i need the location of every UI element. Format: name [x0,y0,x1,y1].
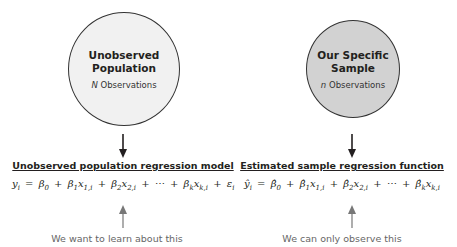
eq-plus: + [284,178,296,189]
sample-count: n Observations [321,80,385,90]
eq-term-var-sub: k,i [431,184,440,192]
eq-plus: + [371,178,383,189]
eq-lhs-sub: i [250,184,252,192]
eq-plus: + [400,178,412,189]
down-arrow-icon [118,134,128,158]
eq-equals: = [23,178,35,189]
population-title-line2: Population [92,62,156,74]
eq-plus: + [139,178,151,189]
eq-ellipsis: ⋯ [387,178,397,189]
sample-caption: We can only observe this [231,233,453,244]
population-title-line1: Unobserved [89,49,160,61]
population-equation: yi = β0 + β1x1,i + β2x2,i + ⋯ + βkxk,i +… [12,178,234,192]
eq-equals: = [255,178,267,189]
sample-circle: Our Specific Sample n Observations [306,20,400,118]
population-heading: Unobserved population regression model [12,160,234,171]
eq-lhs-sub: i [18,184,20,192]
eq-term-var-sub: 1,i [316,184,325,192]
population-circle-title: Unobserved Population [89,49,160,75]
sample-heading: Estimated sample regression function [232,160,452,171]
eq-plus: + [52,178,64,189]
population-circle: Unobserved Population N Observations [68,12,180,126]
sample-panel: Our Specific Sample n Observations Estim… [229,0,457,247]
population-panel: Unobserved Population N Observations Uno… [0,0,228,247]
eq-term-var-sub: 2,i [359,184,368,192]
up-arrow-icon [118,205,128,228]
population-count-label: Observations [98,80,157,90]
eq-plus: + [211,178,223,189]
eq-plus: + [328,178,340,189]
sample-circle-title: Our Specific Sample [317,49,388,75]
sample-count-label: Observations [326,80,385,90]
sample-title-line1: Our Specific [317,49,388,61]
down-arrow-icon [347,134,357,158]
eq-term-sub: 0 [44,184,48,192]
eq-term-var-sub: 1,i [84,184,93,192]
eq-ellipsis: ⋯ [155,178,165,189]
eq-term-var-sub: 2,i [127,184,136,192]
eq-term-sub: 0 [276,184,280,192]
population-count: N Observations [91,80,156,90]
eq-plus: + [96,178,108,189]
sample-title-line2: Sample [331,62,375,74]
population-caption: We want to learn about this [3,233,231,244]
eq-plus: + [168,178,180,189]
sample-equation: ŷi = β̂0 + β̂1x1,i + β̂2x2,i + ⋯ + β̂kxk… [232,178,452,192]
eq-term-var-sub: k,i [199,184,208,192]
up-arrow-icon [347,205,357,228]
